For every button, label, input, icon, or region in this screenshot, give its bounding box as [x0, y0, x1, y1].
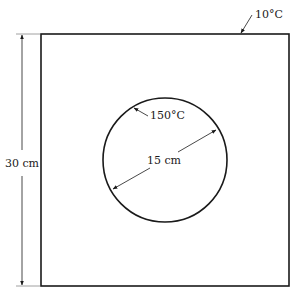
- diameter-line-lower: [113, 168, 150, 189]
- circle-diameter-label: 15 cm: [147, 154, 182, 167]
- diameter-line-upper: [178, 130, 216, 152]
- diagram-canvas: 30 cm 10°C 150°C 15 cm: [0, 0, 299, 296]
- inner-temperature-label: 150°C: [150, 109, 185, 122]
- outer-temperature-label: 10°C: [255, 8, 283, 21]
- inner-temp-leader: [134, 108, 148, 116]
- square-side-label: 30 cm: [5, 157, 40, 170]
- outer-temp-leader: [241, 15, 252, 33]
